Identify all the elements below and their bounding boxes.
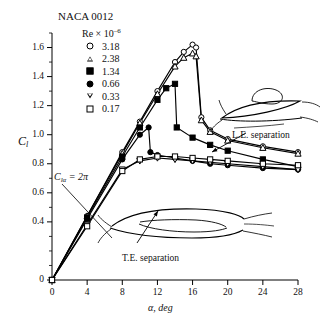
data-point-filled-circle bbox=[137, 132, 142, 137]
data-point-filled-circle bbox=[120, 157, 125, 162]
data-point-filled-square bbox=[137, 125, 142, 130]
data-point-open-square bbox=[260, 161, 265, 166]
y-tick-label: 1.2 bbox=[20, 101, 44, 111]
x-tick-label: 4 bbox=[77, 288, 97, 298]
y-tick-label: 1.6 bbox=[20, 43, 44, 53]
x-tick-label: 8 bbox=[112, 288, 132, 298]
y-tick-label: 0.8 bbox=[20, 159, 44, 169]
x-tick-label: 20 bbox=[218, 288, 238, 298]
plot-canvas bbox=[0, 0, 323, 326]
data-point-filled-square bbox=[172, 81, 177, 86]
x-tick-label: 24 bbox=[253, 288, 273, 298]
data-point-filled-square bbox=[174, 125, 179, 130]
airfoil-sketch-te bbox=[98, 209, 274, 243]
te-arrow-head bbox=[153, 211, 158, 216]
y-tick-label: 0.6 bbox=[20, 188, 44, 198]
data-point-filled-circle bbox=[85, 216, 90, 221]
data-point-open-square bbox=[85, 224, 90, 229]
data-point-filled-square bbox=[164, 86, 169, 91]
data-point-open-square bbox=[190, 155, 195, 160]
x-tick-label: 0 bbox=[42, 288, 62, 298]
x-tick-label: 16 bbox=[183, 288, 203, 298]
data-point-open-square bbox=[137, 157, 142, 162]
y-tick-label: 0 bbox=[20, 275, 44, 285]
data-point-open-square bbox=[225, 158, 230, 163]
x-tick-label: 12 bbox=[147, 288, 167, 298]
data-point-filled-square bbox=[155, 97, 160, 102]
cl-alpha-leader bbox=[62, 184, 112, 238]
x-tick-label: 28 bbox=[288, 288, 308, 298]
y-tick-label: 0.4 bbox=[20, 217, 44, 227]
data-point-filled-square bbox=[208, 142, 213, 147]
data-point-open-square bbox=[172, 154, 177, 159]
y-tick-label: 1.4 bbox=[20, 72, 44, 82]
data-point-open-square bbox=[155, 154, 160, 159]
data-point-open-square bbox=[208, 157, 213, 162]
data-point-filled-circle bbox=[148, 150, 153, 155]
data-point-filled-square bbox=[190, 135, 195, 140]
data-point-filled-circle bbox=[146, 125, 151, 130]
chart-figure: NACA 0012 Re × 10–6 3.18 2.38 1.34 0.66 … bbox=[0, 0, 323, 326]
data-point-open-square bbox=[120, 168, 125, 173]
data-point-filled-square bbox=[225, 148, 230, 153]
data-point-open-square bbox=[295, 163, 300, 168]
airfoil-sketch-le bbox=[210, 88, 320, 132]
le-arrow-head bbox=[212, 148, 217, 152]
y-tick-label: 1.0 bbox=[20, 130, 44, 140]
data-point-open-square bbox=[49, 277, 54, 282]
data-point-open-circle bbox=[193, 45, 198, 50]
data-point-open-triangle-up bbox=[181, 55, 187, 61]
